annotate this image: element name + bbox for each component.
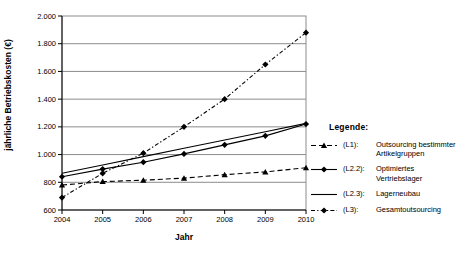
x-tick-label: 2008 (216, 215, 233, 224)
legend-code: (L2.3): (343, 189, 376, 198)
y-tick-label: 1.800 (37, 39, 56, 48)
plot-area-border (62, 16, 306, 210)
axis-titles: jährliche Betriebskosten (€)Jahr (3, 39, 194, 242)
data-series (59, 30, 309, 201)
legend-code: (L2.2): (343, 164, 376, 173)
legend-item-l2-3: (L2.3): Lagerneubau (310, 189, 462, 199)
legend-sample-solid-line-icon (310, 190, 338, 199)
legend-code: (L1): (343, 140, 376, 149)
legend-item-l3: (L3): Gesamtoutsourcing (310, 205, 462, 215)
x-tick-label: 2005 (94, 215, 111, 224)
x-axis-title: Jahr (175, 232, 194, 242)
y-tick-label: 600 (43, 206, 56, 215)
legend-label: Optimiertes Vertriebslager (376, 164, 462, 183)
legend: Legende: (L1): Outsourcing bestimmter Ar… (310, 122, 462, 221)
y-tick-label: 800 (43, 178, 56, 187)
y-axis-title: jährliche Betriebskosten (€) (3, 39, 13, 152)
y-tick-label: 1.400 (37, 95, 56, 104)
x-tick-label: 2007 (176, 215, 193, 224)
legend-title: Legende: (329, 122, 462, 133)
legend-sample-dashed-triangle-icon (310, 141, 338, 150)
legend-label: Gesamtoutsourcing (376, 205, 462, 214)
x-tick-label: 2009 (257, 215, 274, 224)
legend-label: Outsourcing bestimmter Artikelgruppen (376, 140, 462, 159)
legend-label: Lagerneubau (376, 189, 462, 198)
x-tick-label: 2006 (135, 215, 152, 224)
x-tick-label: 2004 (54, 215, 71, 224)
y-tick-label: 1.200 (37, 122, 56, 131)
axes (58, 16, 306, 214)
y-tick-label: 2.000 (37, 12, 56, 21)
gridlines (62, 44, 306, 183)
legend-code: (L3): (343, 205, 376, 214)
figure-annual-operating-costs-chart: 6008001.0001.2001.4001.6001.8002.0002004… (0, 0, 463, 258)
legend-item-l1: (L1): Outsourcing bestimmter Artikelgrup… (310, 140, 462, 159)
y-tick-label: 1.000 (37, 150, 56, 159)
legend-item-l2-2: (L2.2): Optimiertes Vertriebslager (310, 164, 462, 183)
legend-sample-solid-diamond-icon (310, 165, 338, 174)
y-tick-label: 1.600 (37, 67, 56, 76)
legend-sample-dashdot-diamond-icon (310, 206, 338, 215)
